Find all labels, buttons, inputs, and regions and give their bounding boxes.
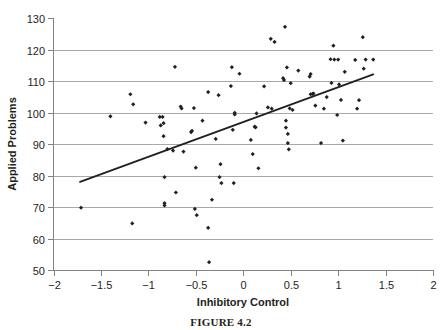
data-point: [210, 198, 214, 202]
data-point: [266, 105, 270, 109]
data-point: [195, 213, 199, 217]
figure-caption: FIGURE 4.2: [190, 316, 252, 328]
data-point: [251, 152, 255, 156]
x-tick-label: 2: [430, 279, 436, 291]
data-point: [272, 40, 276, 44]
data-point: [232, 181, 236, 185]
data-point: [79, 206, 83, 210]
data-point: [143, 120, 147, 124]
data-point: [108, 114, 112, 118]
data-point: [296, 69, 300, 73]
x-tick-label: 0: [240, 279, 246, 291]
x-tick-label: 1.5: [379, 279, 394, 291]
data-point: [256, 166, 260, 170]
y-tick-label: 60: [33, 234, 45, 246]
data-point: [286, 132, 290, 136]
data-point: [284, 126, 288, 130]
data-point: [181, 149, 185, 153]
data-point: [131, 102, 135, 106]
y-axis-title: Applied Problems: [6, 97, 18, 191]
y-tick-label: 50: [33, 265, 45, 277]
data-point: [216, 93, 220, 97]
data-point: [353, 58, 357, 62]
x-tick-label: −0.5: [186, 279, 208, 291]
y-tick-label: 100: [27, 108, 45, 120]
data-point: [217, 175, 221, 179]
data-point: [325, 95, 329, 99]
data-point: [283, 25, 287, 29]
data-point: [200, 119, 204, 123]
data-point: [336, 57, 340, 61]
y-tick-label: 120: [27, 45, 45, 57]
data-point: [159, 123, 163, 127]
data-point: [285, 65, 289, 69]
data-point: [355, 107, 359, 111]
data-point: [161, 121, 165, 125]
data-point: [269, 37, 273, 41]
data-point: [357, 98, 361, 102]
data-point: [364, 57, 368, 61]
data-point: [162, 203, 166, 207]
data-point: [192, 106, 196, 110]
data-point: [161, 134, 165, 138]
data-point: [174, 190, 178, 194]
y-tick-label: 90: [33, 139, 45, 151]
gridlines: [54, 51, 433, 240]
data-point: [231, 128, 235, 132]
regression-line: [80, 74, 373, 181]
y-axis-ticks: 5060708090100110120130: [27, 13, 54, 277]
data-point: [362, 67, 366, 71]
data-point: [229, 84, 233, 88]
data-point: [130, 221, 134, 225]
figure-container: 5060708090100110120130 −2−1.5−1−0.500.51…: [0, 0, 443, 330]
data-point: [328, 57, 332, 61]
data-point: [341, 138, 345, 142]
data-point: [284, 119, 288, 123]
data-point: [339, 98, 343, 102]
data-point: [194, 166, 198, 170]
data-point: [162, 175, 166, 179]
x-tick-label: 0.5: [284, 279, 299, 291]
data-point: [322, 107, 326, 111]
x-tick-label: −2: [48, 279, 61, 291]
data-point: [237, 72, 241, 76]
data-point: [287, 147, 291, 151]
data-point: [128, 92, 132, 96]
data-point: [313, 103, 317, 107]
data-point: [219, 181, 223, 185]
data-point: [206, 226, 210, 230]
data-point: [161, 115, 165, 119]
y-tick-label: 80: [33, 171, 45, 183]
data-point: [331, 44, 335, 48]
data-point: [249, 138, 253, 142]
y-tick-label: 130: [27, 13, 45, 25]
x-axis-title: Inhibitory Control: [197, 296, 289, 308]
scatter-plot: 5060708090100110120130 −2−1.5−1−0.500.51…: [0, 0, 443, 330]
data-point: [254, 111, 258, 115]
y-tick-label: 110: [27, 76, 45, 88]
x-axis-ticks: −2−1.5−1−0.500.511.52: [48, 270, 436, 291]
y-tick-label: 70: [33, 202, 45, 214]
data-point: [218, 162, 222, 166]
data-point: [371, 57, 375, 61]
data-point: [361, 35, 365, 39]
x-tick-label: 1: [335, 279, 341, 291]
x-tick-label: −1.5: [91, 279, 113, 291]
data-point: [230, 65, 234, 69]
data-point: [207, 260, 211, 264]
data-point: [332, 57, 336, 61]
data-point: [173, 65, 177, 69]
data-point: [343, 70, 347, 74]
data-point: [262, 84, 266, 88]
data-point: [206, 90, 210, 94]
data-point: [214, 137, 218, 141]
x-tick-label: −1: [142, 279, 155, 291]
